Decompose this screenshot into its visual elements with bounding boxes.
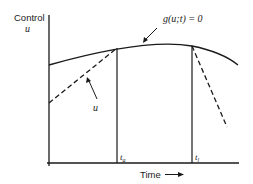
constraint-label: g(u;t) = 0	[163, 13, 203, 25]
u-pointer-arrow	[89, 81, 97, 99]
y-axis-label: Control	[14, 12, 45, 23]
x-axis-label: Time	[140, 169, 161, 180]
t-a-label: ta	[120, 152, 126, 163]
arrowhead-icon	[86, 77, 91, 83]
constraint-curve	[49, 44, 238, 65]
control-constraint-diagram: Control u g(u;t) = 0 u ta tl Time	[0, 0, 253, 184]
y-axis-symbol: u	[25, 23, 30, 34]
control-dashed-right	[192, 46, 227, 127]
t-l-label: tl	[195, 152, 200, 163]
time-arrow-icon	[178, 172, 184, 177]
constraint-pointer-arrow	[145, 28, 157, 40]
control-label: u	[93, 102, 98, 113]
